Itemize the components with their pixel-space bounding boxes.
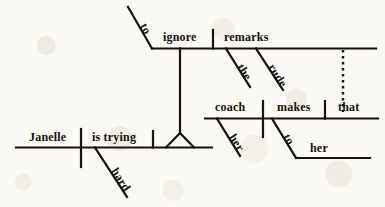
sentence-diagram: Janelle is trying hard to ignore remarks… [0,0,385,207]
label-makes: makes [277,101,311,113]
label-is-trying: is trying [92,131,136,143]
label-janelle: Janelle [29,131,66,143]
tripod-left-leg [166,133,180,148]
label-coach: coach [215,101,245,113]
label-her-object: her [310,142,328,154]
tripod-right-leg [180,133,194,148]
label-that: that [338,101,359,113]
label-ignore: ignore [163,31,197,43]
label-remarks: remarks [224,31,269,43]
